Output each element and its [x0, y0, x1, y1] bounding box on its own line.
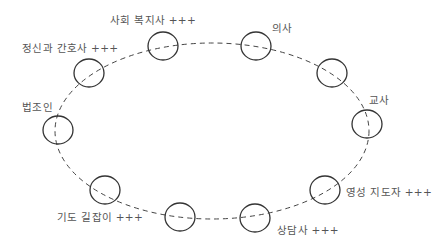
node-label-lawyer: 법조인: [22, 99, 53, 114]
node-label-counselor: 상담사 +++: [277, 222, 339, 237]
dashed-ring: [55, 43, 369, 219]
node-circle-spiritual-director: [310, 176, 340, 204]
node-label-psychiatric-nurse: 정신과 간호사 +++: [22, 40, 118, 55]
node-circle-counselor: [240, 204, 270, 232]
node-circle-teacher: [352, 110, 382, 138]
node-circle-lawyer: [43, 116, 73, 144]
node-label-prayer-guide: 기도 길잡이 +++: [57, 209, 143, 224]
node-circle-doctor: [241, 32, 271, 60]
node-label-social-worker: 사회 복지사 +++: [110, 12, 196, 27]
node-circle-prayer-guide: [90, 176, 120, 204]
node-label-teacher: 교사: [369, 92, 390, 107]
node-label-spiritual-director: 영성 지도자 +++: [346, 184, 432, 199]
node-circle-psychiatric-nurse: [74, 59, 104, 87]
node-label-doctor: 의사: [272, 20, 293, 35]
node-group: [43, 32, 382, 232]
node-circle-unlabeled-upper-right: [317, 59, 347, 87]
